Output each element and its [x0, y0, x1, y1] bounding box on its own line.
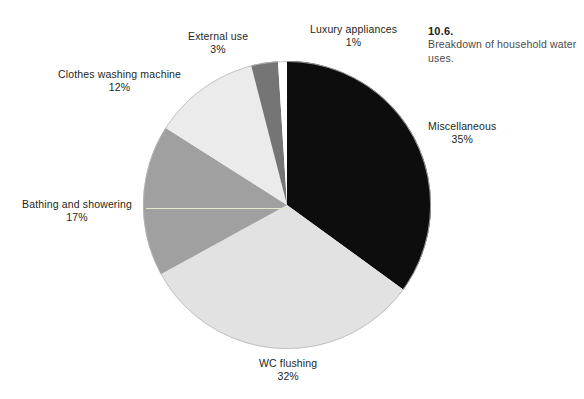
pie-chart: [143, 61, 431, 349]
pie-label-external-use-value: 3%: [188, 43, 248, 56]
pie-label-bathing-and-showering-name: Bathing and showering: [22, 198, 132, 211]
pie-label-luxury-appliances: Luxury appliances 1%: [310, 23, 397, 49]
pie-label-wc-flushing-name: WC flushing: [259, 357, 317, 370]
pie-label-clothes-washing-machine: Clothes washing machine 12%: [58, 68, 181, 94]
figure-caption: 10.6. Breakdown of household water uses.: [428, 24, 578, 65]
figure-caption-number: 10.6.: [428, 24, 578, 38]
pie-slices: [143, 61, 431, 349]
pie-label-bathing-and-showering: Bathing and showering 17%: [22, 198, 132, 224]
pie-label-external-use: External use 3%: [188, 30, 248, 56]
pie-label-luxury-appliances-name: Luxury appliances: [310, 23, 397, 36]
pie-label-clothes-washing-machine-name: Clothes washing machine: [58, 68, 181, 81]
pie-label-external-use-name: External use: [188, 30, 248, 43]
pie-label-bathing-and-showering-value: 17%: [22, 211, 132, 224]
pie-label-wc-flushing: WC flushing 32%: [259, 357, 317, 383]
leader-line-bathing-and-showering: [146, 208, 288, 209]
pie-label-miscellaneous-name: Miscellaneous: [428, 120, 496, 133]
figure-household-water-uses: Luxury appliances 1% External use 3% Clo…: [0, 0, 584, 399]
pie-label-miscellaneous: Miscellaneous 35%: [428, 120, 496, 146]
pie-label-luxury-appliances-value: 1%: [310, 36, 397, 49]
pie-label-miscellaneous-value: 35%: [428, 133, 496, 146]
pie-label-wc-flushing-value: 32%: [259, 370, 317, 383]
pie-label-clothes-washing-machine-value: 12%: [58, 81, 181, 94]
pie-chart-svg: [143, 61, 431, 349]
figure-caption-text: Breakdown of household water uses.: [428, 38, 578, 65]
